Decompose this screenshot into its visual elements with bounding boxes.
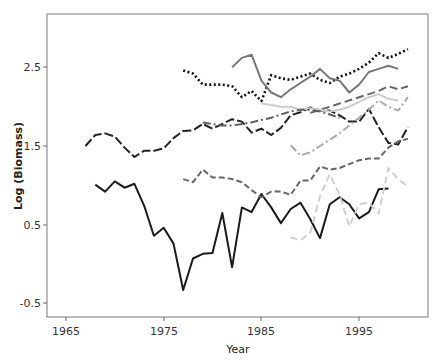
- x-tick-label: 1975: [150, 325, 178, 338]
- x-axis: 1965 1975 1985 1995: [52, 317, 373, 338]
- x-tick-label: 1985: [247, 325, 275, 338]
- y-tick-label: 2.5: [24, 61, 42, 74]
- y-tick-label: -0.5: [20, 297, 41, 310]
- x-tick-label: 1995: [345, 325, 373, 338]
- x-tick-label: 1965: [52, 325, 80, 338]
- y-tick-label: 0.5: [24, 219, 42, 232]
- x-axis-title: Year: [225, 343, 250, 356]
- line-chart: 1965 1975 1985 1995 -0.5 0.5 1.5 2.5 Yea…: [0, 0, 441, 362]
- plot-area: [47, 14, 428, 317]
- y-axis-title: Log (Biomass): [12, 122, 25, 210]
- y-tick-label: 1.5: [24, 140, 42, 153]
